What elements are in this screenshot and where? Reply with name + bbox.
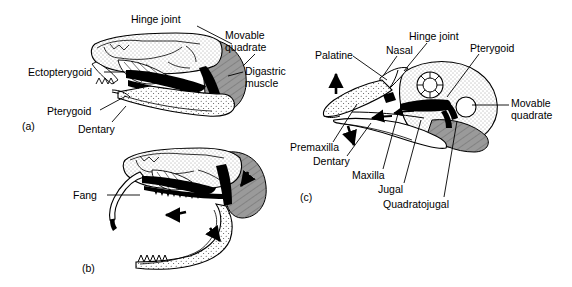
label-hinge-joint: Hinge joint (131, 14, 181, 26)
panel-caption-a: (a) (22, 120, 35, 132)
label-palatine: Palatine (315, 50, 353, 62)
label-jugal: Jugal (378, 184, 403, 196)
upper-bill-shape (323, 80, 392, 117)
label-dentary: Dentary (313, 156, 350, 168)
label-movable-quadrate: Movable quadrate (511, 98, 552, 121)
leader-maxilla (383, 110, 399, 169)
label-digastric-muscle: Digastric muscle (245, 66, 286, 89)
leader-palatine (353, 56, 387, 80)
movable-quadrate-shape-c (456, 97, 476, 117)
leader-pterygoid (100, 96, 126, 110)
leader-dentary (347, 123, 371, 156)
label-dentary: Dentary (78, 124, 115, 136)
label-fang: Fang (73, 190, 97, 202)
label-movable-quadrate: Movable quadrate (225, 30, 266, 53)
sclerotic-ring-inner (423, 78, 437, 92)
leader-dentary (112, 106, 126, 122)
label-hinge-joint: Hinge joint (409, 31, 459, 43)
label-quadratojugal: Quadratojugal (383, 199, 449, 211)
fang-tip (110, 219, 117, 231)
arrow-panel-c-lower-bill (348, 126, 354, 145)
label-maxilla: Maxilla (352, 170, 385, 182)
figure-canvas: (a)Hinge jointMovable quadrateDigastric … (0, 0, 572, 287)
snake-skull-open (110, 148, 267, 269)
bird-skull (323, 62, 497, 153)
label-pterygoid: Pterygoid (47, 106, 91, 118)
arrow-panel-c-palatine (372, 116, 392, 118)
panel-caption-c: (c) (300, 191, 312, 203)
arrow-panel-b-lower-jaw (166, 212, 186, 215)
snake-skull-closed (91, 33, 246, 116)
label-premaxilla: Premaxilla (290, 142, 339, 154)
label-ectopterygoid: Ectopterygoid (28, 67, 92, 79)
label-pterygoid: Pterygoid (470, 43, 514, 55)
fang-shape (110, 172, 144, 220)
label-nasal: Nasal (386, 45, 413, 57)
panel-caption-b: (b) (82, 262, 95, 274)
